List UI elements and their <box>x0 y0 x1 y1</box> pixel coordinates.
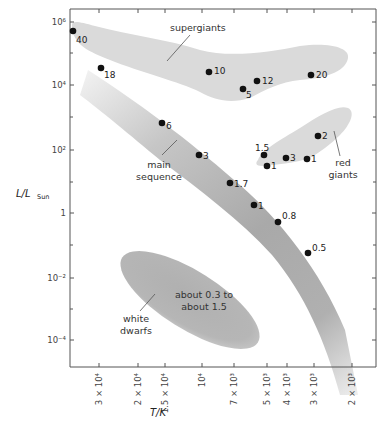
x-axis-title: T/K <box>150 407 167 418</box>
y-tick-label: 10⁻² <box>47 273 66 283</box>
x-tick-labels: 3 × 10⁴ 2 × 10⁴ 1.5 × 10⁴ 10⁴ 7 × 10³ 5 … <box>94 372 357 413</box>
svg-text:1.7: 1.7 <box>234 179 248 189</box>
svg-text:6: 6 <box>166 121 172 131</box>
svg-text:1: 1 <box>311 154 317 164</box>
star-point: 0.5 <box>305 243 327 256</box>
white-dwarfs-region <box>107 233 273 367</box>
y-axis-title: L/L Sun <box>16 188 49 201</box>
y-ticks-left <box>70 22 74 340</box>
svg-text:10: 10 <box>214 66 226 76</box>
x-tick-label: 7 × 10³ <box>229 373 239 405</box>
x-tick-label: 2 × 10⁴ <box>133 372 143 405</box>
red-text: red <box>335 157 351 168</box>
y-tick-label: 10² <box>52 145 66 155</box>
svg-text:12: 12 <box>262 76 273 86</box>
wd-note-line1: about 0.3 to <box>175 289 233 300</box>
x-tick-label: 5 × 10³ <box>262 373 272 405</box>
wd-note-line2: about 1.5 <box>181 301 227 312</box>
x-tick-label: 4 × 10³ <box>282 373 292 405</box>
giants-text: giants <box>328 169 357 180</box>
svg-text:5: 5 <box>246 90 252 100</box>
supergiants-text: supergiants <box>170 22 226 33</box>
white-dwarf-mass-note: about 0.3 to about 1.5 <box>175 289 233 312</box>
hr-diagram: 10⁶ 10⁴ 10² 1 10⁻² 10⁻⁴ 3 × 10⁴ 2 × 10⁴ … <box>0 0 388 428</box>
star-point: 18 <box>98 65 116 80</box>
y-tick-label: 10⁶ <box>52 17 67 27</box>
svg-text:1: 1 <box>271 161 277 171</box>
y-ticks-right <box>372 22 376 340</box>
x-tick-label: 10⁴ <box>197 372 207 387</box>
svg-text:3: 3 <box>203 151 209 161</box>
white-text: white <box>123 313 149 324</box>
svg-text:20: 20 <box>316 70 328 80</box>
y-tick-labels: 10⁶ 10⁴ 10² 1 10⁻² 10⁻⁴ <box>47 17 66 345</box>
x-tick-label: 3 × 10³ <box>309 373 319 405</box>
white-dwarfs-label: white dwarfs <box>120 294 155 336</box>
y-axis-title-main: L/L <box>16 188 31 199</box>
svg-text:18: 18 <box>104 70 116 80</box>
svg-text:0.5: 0.5 <box>312 243 326 253</box>
sequence-text: sequence <box>136 171 182 182</box>
svg-text:1: 1 <box>258 201 264 211</box>
svg-text:0.8: 0.8 <box>282 211 297 221</box>
y-tick-label: 10⁴ <box>52 80 67 90</box>
svg-text:40: 40 <box>76 35 88 45</box>
svg-text:2: 2 <box>322 131 328 141</box>
star-point: 0.8 <box>275 211 297 225</box>
y-tick-label: 10⁻⁴ <box>47 335 66 345</box>
x-tick-label: 3 × 10⁴ <box>94 372 104 405</box>
y-axis-title-sub: Sun <box>37 193 49 201</box>
main-text: main <box>147 159 171 170</box>
x-tick-label: 2 × 10³ <box>347 373 357 405</box>
dwarfs-text: dwarfs <box>120 325 152 336</box>
svg-text:3: 3 <box>290 153 296 163</box>
y-tick-label: 1 <box>61 208 66 218</box>
svg-text:1.5: 1.5 <box>255 143 269 153</box>
